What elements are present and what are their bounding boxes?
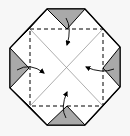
origami-diagram [0, 0, 130, 136]
